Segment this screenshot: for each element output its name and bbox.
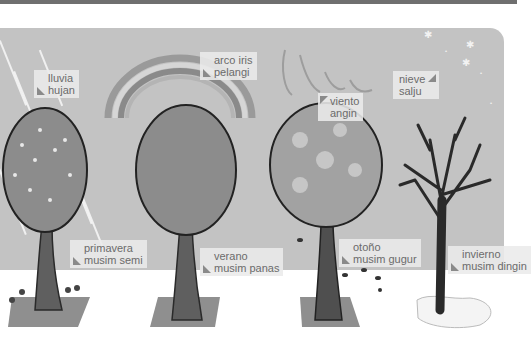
bare-tree xyxy=(400,118,490,310)
snow-patch xyxy=(417,296,491,327)
label-rain: lluvia hujan xyxy=(34,70,79,98)
label-rainbow: arco iris pelangi xyxy=(200,52,257,80)
label-spring: primavera musim semi xyxy=(70,240,147,268)
wind-icon xyxy=(283,50,372,95)
pointer-triangle-icon xyxy=(428,74,436,82)
autumn-tree xyxy=(270,103,382,320)
pointer-triangle-icon xyxy=(451,263,459,271)
blossom-tree xyxy=(3,108,87,310)
pointer-triangle-icon xyxy=(342,256,350,264)
pointer-triangle-icon xyxy=(320,96,328,104)
label-autumn: otoño musim gugur xyxy=(339,239,421,267)
label-snow: nieve salju xyxy=(393,71,439,99)
pointer-triangle-icon xyxy=(37,87,45,95)
label-summer: verano musim panas xyxy=(200,248,283,276)
label-winter: invierno musim dingin xyxy=(448,246,531,274)
pointer-triangle-icon xyxy=(73,257,81,265)
label-wind: viento angin xyxy=(318,93,363,121)
leafy-tree xyxy=(136,105,236,320)
pointer-triangle-icon xyxy=(203,69,211,77)
pointer-triangle-icon xyxy=(203,265,211,273)
